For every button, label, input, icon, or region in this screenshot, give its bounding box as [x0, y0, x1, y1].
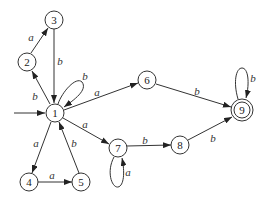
- edge-label-1-2: b: [32, 90, 38, 102]
- edge-label-4-5: a: [49, 169, 55, 181]
- edge-7-7: [110, 157, 123, 187]
- state-9-accepting: 9: [231, 99, 253, 121]
- svg-text:9: 9: [239, 104, 245, 116]
- edge-label-8-9: b: [210, 132, 216, 144]
- edge-label-2-3: a: [28, 31, 34, 43]
- edge-label-1-1: b: [82, 70, 88, 82]
- edge-label-6-9: b: [194, 85, 200, 97]
- state-3: 3: [45, 11, 63, 29]
- edge-9-9: [235, 68, 248, 99]
- svg-text:4: 4: [26, 176, 32, 188]
- state-7: 7: [109, 139, 127, 157]
- edge-1-6: [64, 83, 138, 110]
- svg-text:1: 1: [52, 107, 58, 119]
- state-4: 4: [20, 173, 38, 191]
- state-1: 1: [46, 104, 64, 122]
- svg-text:8: 8: [177, 139, 183, 151]
- edge-label-7-8: b: [142, 134, 148, 146]
- state-5: 5: [72, 173, 90, 191]
- svg-text:3: 3: [51, 14, 57, 26]
- state-8: 8: [171, 136, 189, 154]
- edge-label-1-4: a: [33, 137, 39, 149]
- edge-label-9-9: b: [250, 72, 256, 84]
- edge-label-1-6: a: [94, 86, 100, 98]
- edge-label-3-1: b: [57, 55, 63, 67]
- svg-text:2: 2: [24, 56, 30, 68]
- edge-1-1: [58, 81, 83, 107]
- automaton-diagram: b a b b a a a a b a b b b b 1 2 3: [0, 0, 269, 203]
- svg-text:6: 6: [144, 74, 150, 86]
- svg-text:5: 5: [78, 176, 84, 188]
- svg-text:7: 7: [115, 142, 121, 154]
- edge-label-7-7: a: [125, 166, 131, 178]
- edge-label-1-7: a: [82, 118, 88, 130]
- edge-7-8: [127, 145, 171, 146]
- state-2: 2: [18, 53, 36, 71]
- edge-label-5-1: b: [71, 137, 77, 149]
- state-6: 6: [138, 71, 156, 89]
